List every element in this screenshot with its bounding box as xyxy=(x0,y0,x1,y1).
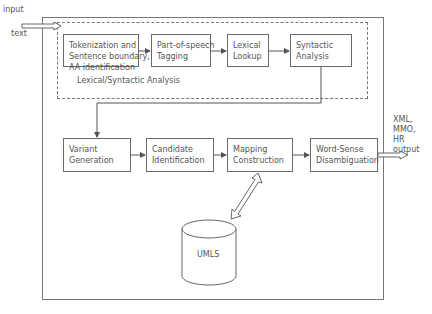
umls-label: UMLS xyxy=(197,250,219,260)
input-arrow xyxy=(22,22,61,30)
output-label-output: output xyxy=(393,145,419,155)
arrow-syntactic-to-variant xyxy=(97,67,321,137)
output-label-hr: HR xyxy=(393,135,405,145)
umls-mapping-double-arrow xyxy=(231,173,262,219)
connectors xyxy=(0,0,432,314)
output-label-mmo: MMO, xyxy=(393,125,416,135)
output-label-xml: XML, xyxy=(393,115,412,125)
